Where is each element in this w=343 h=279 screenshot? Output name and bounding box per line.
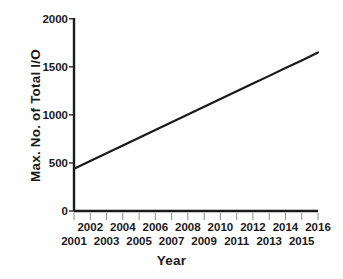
data-series-line [74,52,318,168]
x-tick-label: 2016 [298,222,338,234]
x-axis-label: Year [0,253,343,268]
chart-container: Max. No. of Total I/O 2000 1500 1000 500… [0,0,343,279]
x-axis-ticks [74,213,318,220]
x-tick-label: 2015 [282,236,322,248]
